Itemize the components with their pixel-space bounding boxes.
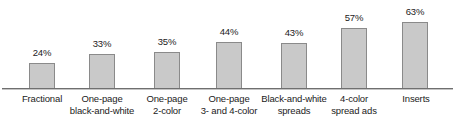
x-tick-label-one-page-black-and-white: One-page black-and-white [62,93,142,116]
x-tick-label-line2: black-and-white [62,105,142,117]
x-tick-label-line1: Black-and-white [261,93,326,104]
bar-inserts [402,22,428,89]
x-tick-label-line1: 4-color [340,93,368,104]
x-tick-label-one-page-2-color: One-page 2-color [137,93,197,116]
bar-one-page-3-and-4-color [216,42,242,89]
value-label-one-page-black-and-white: 33% [82,39,122,49]
value-label-4-color-spread-ads: 57% [334,13,374,23]
x-tick-label-line1: One-page [208,93,249,104]
x-tick-label-line2: spread ads [320,105,388,117]
bar-4-color-spread-ads [341,28,367,89]
bar-chart: 24% 33% 35% 44% 43% 57% 63% Fractional O… [0,0,455,133]
bar-fractional [29,63,55,89]
x-tick-label-line1: Inserts [402,93,429,104]
x-tick-label-4-color-spread-ads: 4-color spread ads [320,93,388,116]
x-tick-label-line1: One-page [81,93,122,104]
x-axis-line-shadow [2,89,453,90]
x-tick-label-line1: Fractional [22,93,62,104]
x-tick-label-inserts: Inserts [388,93,444,105]
bar-one-page-black-and-white [89,54,115,89]
x-tick-label-line1: One-page [146,93,187,104]
x-tick-label-line2: 2-color [137,105,197,117]
value-label-inserts: 63% [395,7,435,17]
value-label-fractional: 24% [22,48,62,58]
value-label-one-page-2-color: 35% [147,37,187,47]
plot-area: 24% 33% 35% 44% 43% 57% 63% Fractional O… [0,0,455,133]
bar-one-page-2-color [154,52,180,89]
value-label-black-and-white-spreads: 43% [274,28,314,38]
bar-black-and-white-spreads [281,43,307,89]
value-label-one-page-3-and-4-color: 44% [209,27,249,37]
